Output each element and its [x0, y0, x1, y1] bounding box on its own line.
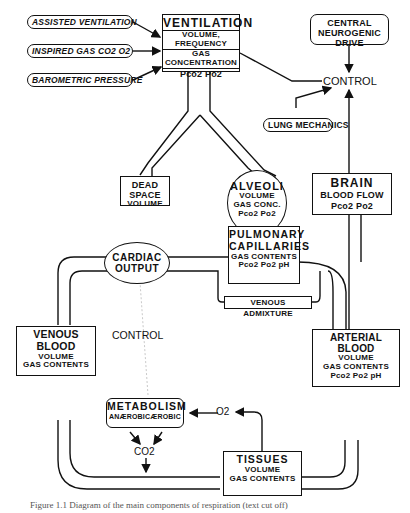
- figure-caption: Figure 1.1 Diagram of the main component…: [30, 500, 288, 510]
- co2-label: CO2: [134, 446, 155, 457]
- input-barometric-pressure: BAROMETRIC PRESSURE: [27, 73, 133, 87]
- tissues-gas-contents: GAS CONTENTS: [224, 475, 301, 484]
- venous-blood-gas-contents: GAS CONTENTS: [17, 361, 95, 370]
- metabolism-box: METABOLISM ANÆROBIC ÆROBIC: [106, 398, 184, 428]
- brain-partial-pressures: Pco2 Po2: [313, 201, 391, 211]
- metabolism-title: METABOLISM: [107, 401, 183, 413]
- arterial-blood-partial-pressures: Pco2 Po2 pH: [313, 372, 399, 381]
- ventilation-box: VENTILATION VOLUME, FREQUENCY GAS CONCEN…: [162, 14, 240, 72]
- pulmonary-title1: PULMONARY: [229, 229, 299, 241]
- alveoli-partial-pressures: Pco2 Po2: [228, 210, 286, 219]
- tissues-title: TISSUES: [224, 454, 301, 466]
- arterial-blood-title: ARTERIAL BLOOD: [313, 332, 399, 354]
- brain-box: BRAIN BLOOD FLOW Pco2 Po2: [312, 173, 392, 215]
- ventilation-volume: VOLUME, FREQUENCY: [163, 31, 239, 50]
- cardiac-output-line1: CARDIAC: [105, 252, 169, 263]
- pulmonary-title2: CAPILLARIES: [229, 241, 299, 253]
- ventilation-gas-concentration: GAS CONCENTRATION: [163, 50, 239, 69]
- ventilation-title: VENTILATION: [163, 15, 239, 31]
- metabolism-types: ANÆROBIC ÆROBIC: [107, 413, 183, 421]
- o2-label: O2: [216, 406, 229, 417]
- pulmonary-capillaries-box: PULMONARY CAPILLARIES GAS CONTENTS Pco2 …: [228, 226, 300, 284]
- venous-blood-box: VENOUS BLOOD VOLUME GAS CONTENTS: [16, 326, 96, 376]
- brain-title: BRAIN: [313, 177, 391, 190]
- venous-blood-title: VENOUS BLOOD: [17, 329, 95, 353]
- brain-blood-flow: BLOOD FLOW: [313, 190, 391, 200]
- dead-space-volume: VOLUME: [121, 200, 169, 209]
- tissues-box: TISSUES VOLUME GAS CONTENTS: [223, 451, 302, 496]
- input-inspired-gas: INSPIRED GAS CO2 O2: [27, 44, 133, 58]
- control-label-top: CONTROL: [323, 75, 377, 87]
- venous-admixture: VENOUS ADMIXTURE: [224, 296, 312, 309]
- central-neurogenic-drive: CENTRAL NEUROGENIC DRIVE: [310, 14, 389, 45]
- input-assisted-ventilation: ASSISTED VENTILATION: [27, 15, 133, 29]
- cardiac-output-line2: OUTPUT: [105, 263, 169, 274]
- cardiac-output-ellipse: CARDIAC OUTPUT: [104, 242, 170, 284]
- aerobic-label: ÆROBIC: [150, 413, 181, 421]
- anaerobic-label: ANÆROBIC: [109, 413, 150, 421]
- dead-space-title: DEAD SPACE: [121, 180, 169, 200]
- dead-space-box: DEAD SPACE VOLUME: [120, 176, 170, 206]
- lung-mechanics: LUNG MECHANICS: [263, 118, 333, 132]
- control-label-mid: CONTROL: [112, 329, 163, 341]
- central-drive-line1: CENTRAL: [311, 18, 388, 28]
- central-drive-line2: NEUROGENIC DRIVE: [311, 28, 388, 48]
- ventilation-partial-pressures: Pco2 Po2: [163, 69, 239, 79]
- arterial-blood-box: ARTERIAL BLOOD VOLUME GAS CONTENTS Pco2 …: [312, 329, 400, 387]
- pulmonary-partial-pressures: Pco2 Po2 pH: [229, 261, 299, 270]
